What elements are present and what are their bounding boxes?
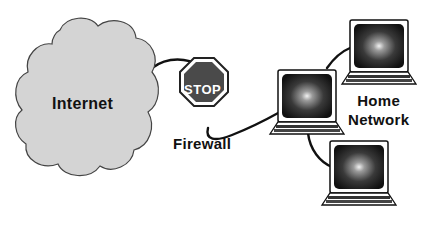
laptop-bottom [322,141,396,205]
firewall-label: Firewall [173,135,231,152]
laptop-top-right [342,20,416,84]
link-laptop-bottom [308,133,332,167]
stop-sign-text: STOP [184,82,221,97]
link-laptop-topright [327,48,350,68]
home-network-label: Home Network [348,91,409,129]
internet-label: Internet [52,95,113,113]
home-network-label-line1: Home [348,91,409,110]
home-network-label-line2: Network [348,110,409,129]
laptop-middle [270,70,344,134]
